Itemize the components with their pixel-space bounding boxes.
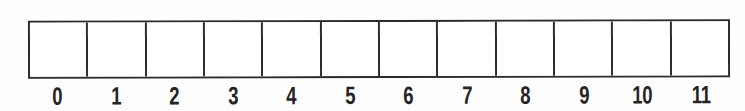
array-index-label-6: 6 (387, 81, 430, 111)
array-cell-8[interactable] (497, 22, 555, 76)
array-cell-3[interactable] (205, 22, 263, 76)
array-cell-7[interactable] (438, 22, 496, 76)
array-cell-6[interactable] (380, 22, 438, 76)
array-grid (28, 19, 730, 78)
array-index-label-7: 7 (445, 81, 488, 111)
array-cell-1[interactable] (88, 22, 146, 76)
array-cell-11[interactable] (672, 21, 728, 75)
array-index-label-row: 0 1 2 3 4 5 6 7 8 9 10 11 (28, 80, 730, 111)
array-index-label-11: 11 (679, 80, 722, 110)
array-index-label-4: 4 (270, 81, 313, 111)
array-cell-5[interactable] (322, 22, 380, 76)
array-cell-10[interactable] (613, 21, 671, 75)
array-cell-4[interactable] (263, 22, 321, 76)
array-index-label-0: 0 (36, 82, 79, 111)
array-cell-0[interactable] (30, 23, 88, 77)
array-cell-9[interactable] (555, 22, 613, 76)
array-index-label-2: 2 (153, 81, 196, 111)
array-index-label-8: 8 (504, 81, 547, 111)
array-index-label-1: 1 (94, 82, 137, 111)
array-index-label-5: 5 (328, 81, 371, 111)
array-cell-2[interactable] (147, 22, 205, 76)
array-index-label-3: 3 (211, 81, 254, 111)
array-diagram-figure: 0 1 2 3 4 5 6 7 8 9 10 11 (0, 0, 745, 111)
array-index-label-10: 10 (621, 80, 664, 110)
array-index-label-9: 9 (562, 81, 605, 111)
